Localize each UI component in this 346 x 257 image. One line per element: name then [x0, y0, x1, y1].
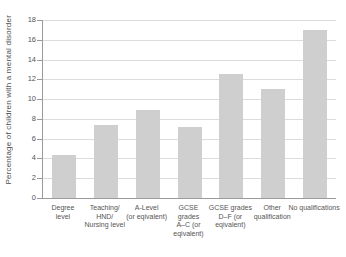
y-tick-label: 10 — [14, 95, 36, 103]
y-tick-label: 14 — [14, 56, 36, 64]
gridline — [43, 79, 336, 80]
x-category-label: Degreelevel — [42, 204, 84, 221]
x-category-label-line: eqivalent) — [173, 230, 203, 239]
y-tick-mark — [37, 198, 42, 199]
x-category-label-line: (or eqivalent) — [126, 213, 167, 222]
bar-chart-figure: Percentage of children with a mental dis… — [0, 0, 346, 257]
gridline — [43, 119, 336, 120]
bar — [94, 125, 118, 198]
y-tick-label: 12 — [14, 75, 36, 83]
y-tick-mark — [37, 79, 42, 80]
x-category-label: GCSE gradesD–F (oreqivalent) — [209, 204, 251, 230]
gridline — [43, 60, 336, 61]
x-category-label-line: qualification — [254, 213, 291, 222]
x-category-label-line: Teaching/ — [90, 204, 120, 213]
y-tick-label: 4 — [14, 154, 36, 162]
y-tick-mark — [37, 20, 42, 21]
bar — [261, 89, 285, 198]
y-tick-label: 0 — [14, 194, 36, 202]
y-axis-label: Percentage of children with a mental dis… — [4, 15, 13, 185]
x-category-label-line: No qualifications — [288, 204, 339, 213]
x-category-label: A-Level(or eqivalent) — [126, 204, 168, 221]
x-category-label: No qualifications — [293, 204, 335, 213]
gridline — [43, 40, 336, 41]
bar — [303, 30, 327, 198]
y-tick-label: 18 — [14, 16, 36, 24]
y-tick-mark — [37, 139, 42, 140]
y-tick-mark — [37, 40, 42, 41]
bar — [219, 74, 243, 198]
bar — [178, 127, 202, 198]
x-category-label: Otherqualification — [251, 204, 293, 221]
bar — [136, 110, 160, 198]
x-category-label-line: GCSE grades — [209, 204, 252, 213]
bar — [52, 155, 76, 199]
y-tick-label: 6 — [14, 135, 36, 143]
y-tick-label: 2 — [14, 174, 36, 182]
y-tick-label: 16 — [14, 36, 36, 44]
y-tick-label: 8 — [14, 115, 36, 123]
y-tick-mark — [37, 119, 42, 120]
x-category-label-line: GCSE — [179, 204, 199, 213]
x-category-label-line: Other — [263, 204, 281, 213]
y-tick-mark — [37, 60, 42, 61]
gridline — [43, 20, 336, 21]
x-category-label: Teaching/HND/Nursing level — [84, 204, 126, 230]
y-axis-label-wrap: Percentage of children with a mental dis… — [1, 12, 15, 188]
x-category-label-line: Nursing level — [85, 221, 125, 230]
y-tick-mark — [37, 158, 42, 159]
x-category-label-line: eqivalent) — [215, 221, 245, 230]
y-tick-mark — [37, 178, 42, 179]
x-category-label-line: A-Level — [135, 204, 159, 213]
x-category-label-line: level — [56, 213, 70, 222]
plot-area — [42, 20, 336, 199]
x-category-label-line: D–F (or — [218, 213, 242, 222]
x-category-label-line: HND/ — [96, 213, 113, 222]
x-category-label-line: Degree — [51, 204, 74, 213]
x-category-label: GCSEgradesA–C (oreqivalent) — [168, 204, 210, 238]
x-category-label-line: A–C (or — [176, 221, 200, 230]
gridline — [43, 99, 336, 100]
x-category-label-line: grades — [178, 213, 199, 222]
y-tick-mark — [37, 99, 42, 100]
